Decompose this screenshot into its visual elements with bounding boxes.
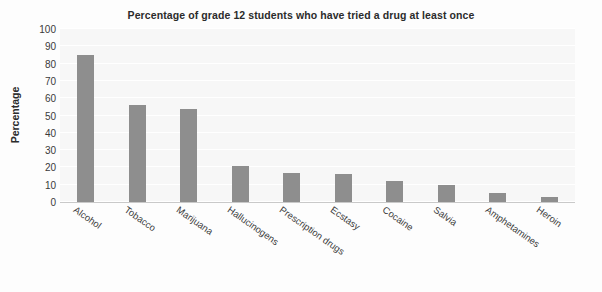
bar — [283, 173, 300, 202]
x-tick-label: Amphetamines — [483, 204, 541, 249]
bar — [386, 181, 403, 202]
bar — [438, 185, 455, 202]
y-axis-title-label: Percentage — [9, 87, 21, 144]
x-tick-label: Cocaine — [380, 204, 415, 233]
y-tick-label: 70 — [45, 75, 56, 86]
bar — [489, 193, 506, 202]
y-tick-label: 40 — [45, 127, 56, 138]
x-tick-label: Heroin — [535, 204, 564, 229]
x-axis-tick-labels: AlcoholTobaccoMarijuanaHallucinogensPres… — [60, 204, 575, 284]
bar-chart: Percentage of grade 12 students who have… — [0, 0, 602, 292]
bars-layer — [60, 29, 575, 202]
y-tick-label: 30 — [45, 145, 56, 156]
y-tick-label: 0 — [50, 197, 56, 208]
chart-title: Percentage of grade 12 students who have… — [0, 9, 602, 21]
y-tick-label: 10 — [45, 179, 56, 190]
y-tick-label: 90 — [45, 41, 56, 52]
y-axis-tick-labels: 0102030405060708090100 — [24, 29, 56, 202]
y-tick-label: 80 — [45, 58, 56, 69]
y-axis-title: Percentage — [6, 60, 24, 170]
x-tick-label: Tobacco — [123, 204, 158, 233]
bar — [129, 105, 146, 202]
x-tick-label: Salvia — [432, 204, 460, 228]
y-tick-label: 100 — [39, 24, 56, 35]
y-tick-label: 20 — [45, 162, 56, 173]
x-axis-line — [60, 202, 575, 203]
x-tick-label: Ecstasy — [329, 204, 363, 232]
bar — [335, 174, 352, 202]
x-tick-label: Hallucinogens — [226, 204, 281, 247]
y-tick-label: 60 — [45, 93, 56, 104]
x-tick-label: Alcohol — [71, 204, 103, 231]
bar — [77, 55, 94, 202]
y-tick-label: 50 — [45, 110, 56, 121]
bar — [232, 166, 249, 202]
x-tick-label: Marijuana — [174, 204, 214, 237]
bar — [180, 109, 197, 202]
